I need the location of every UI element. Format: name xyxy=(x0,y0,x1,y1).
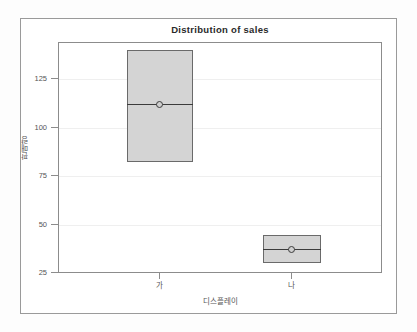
gridline-75 xyxy=(59,176,381,177)
plot-area xyxy=(58,42,382,273)
box-plot-mean-marker-na xyxy=(288,246,295,253)
chart-page: Distribution of sales 판매량 125 100 75 50 … xyxy=(0,0,417,332)
gridline-125 xyxy=(59,79,381,80)
y-tick-mark-50 xyxy=(51,224,58,225)
y-tick-label-25: 25 xyxy=(0,272,47,273)
gridline-50 xyxy=(59,225,381,226)
y-tick-mark-75 xyxy=(51,175,58,176)
y-tick-label-50: 50 xyxy=(0,224,47,225)
y-tick-label-125: 125 xyxy=(0,78,47,79)
y-axis-title: 판매량 xyxy=(20,136,31,160)
gridline-100 xyxy=(59,128,381,129)
x-axis-title: 디스플레이 xyxy=(58,295,382,306)
y-tick-mark-100 xyxy=(51,127,58,128)
x-tick-label-na: 나 xyxy=(261,279,321,290)
y-tick-mark-125 xyxy=(51,78,58,79)
y-tick-label-100: 100 xyxy=(0,127,47,128)
x-tick-label-ga: 가 xyxy=(129,279,189,290)
y-tick-mark-25 xyxy=(51,272,58,273)
box-plot-mean-marker-ga xyxy=(156,101,163,108)
y-tick-label-75: 75 xyxy=(0,175,47,176)
chart-title: Distribution of sales xyxy=(58,24,382,35)
